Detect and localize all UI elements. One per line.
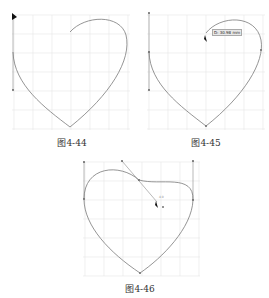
heart-drawing-edit	[60, 148, 210, 298]
figure-caption: 图4-46	[125, 282, 154, 295]
marker-label: 4.0	[159, 195, 164, 199]
figure-4-46: 4.0 图4-46	[60, 148, 210, 298]
figure-4-45: D: 30.98 mm 图4-45	[134, 0, 269, 148]
pen-cursor-icon	[204, 35, 207, 42]
figure-4-44: 图4-44	[0, 0, 134, 148]
heart-drawing-partial	[0, 0, 134, 148]
pen-cursor-icon	[12, 13, 17, 20]
pen-cursor-icon	[155, 201, 158, 208]
heart-drawing-closing	[134, 0, 269, 148]
distance-tooltip: D: 30.98 mm	[212, 29, 242, 36]
